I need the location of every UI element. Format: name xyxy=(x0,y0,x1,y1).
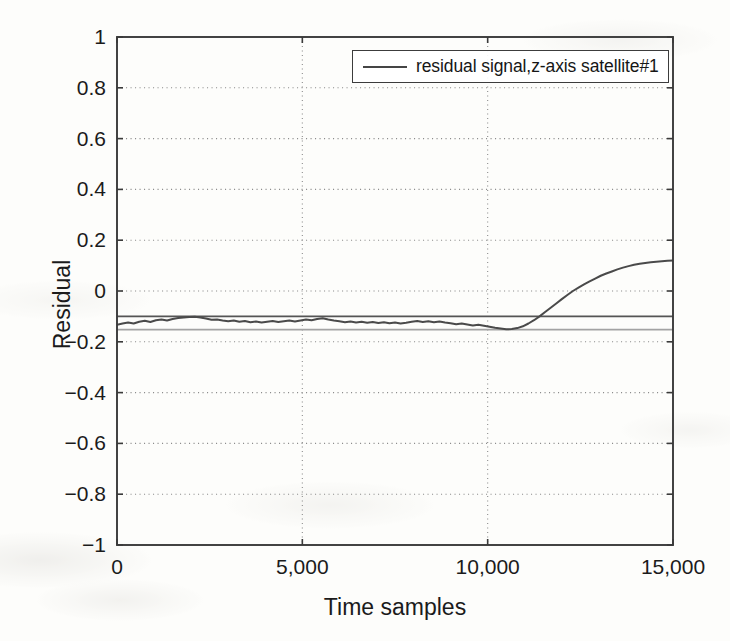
chart-figure: −1−0.8−0.6−0.4−0.200.20.40.60.81 05,0001… xyxy=(0,0,730,641)
y-tick-label: 0.8 xyxy=(77,76,106,100)
data-series xyxy=(117,261,673,330)
y-tick-label: −1 xyxy=(82,533,106,557)
y-tick-label: 0.4 xyxy=(77,177,106,201)
legend-line-swatch xyxy=(363,66,407,68)
legend-entry-residual-signal: residual signal,z-axis satellite#1 xyxy=(353,56,659,77)
x-tick-label: 0 xyxy=(111,555,123,579)
y-tick-label: −0.8 xyxy=(65,482,106,506)
y-tick-label: 1 xyxy=(94,25,106,49)
y-tick-label: 0 xyxy=(94,279,106,303)
y-tick-label: 0.2 xyxy=(77,228,106,252)
x-axis-label: Time samples xyxy=(324,594,466,621)
legend-label: residual signal,z-axis satellite#1 xyxy=(416,56,659,77)
x-tick-label: 10,000 xyxy=(456,555,520,579)
series-line xyxy=(117,261,673,330)
x-tick-label: 5,000 xyxy=(276,555,329,579)
y-axis-label: Residual xyxy=(49,225,76,385)
plot-area xyxy=(0,0,730,641)
y-tick-label: 0.6 xyxy=(77,127,106,151)
x-tick-label: 15,000 xyxy=(641,555,705,579)
gridlines xyxy=(117,37,673,545)
y-tick-label: −0.6 xyxy=(65,431,106,455)
legend: residual signal,z-axis satellite#1 xyxy=(352,50,669,83)
